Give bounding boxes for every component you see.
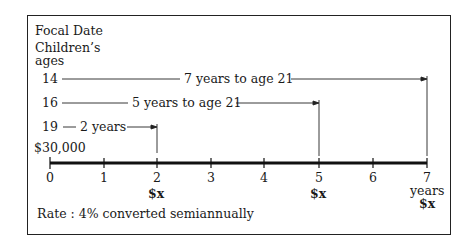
label-5-years: 5 years to age 21 <box>132 96 241 110</box>
label-7-years: 7 years to age 21 <box>184 72 293 86</box>
tick-label-0: 0 <box>46 171 54 185</box>
focal-date-title: Focal Date <box>35 24 103 38</box>
payment-at-5: $x <box>310 187 326 201</box>
tick-label-2: 2 <box>153 171 161 185</box>
arrow-age-14 <box>62 76 427 156</box>
tick-label-6: 6 <box>369 171 377 185</box>
tick-label-3: 3 <box>207 171 215 185</box>
label-2-years: 2 years <box>80 120 126 134</box>
rate-note: Rate : 4% converted semiannually <box>37 207 254 221</box>
payment-at-2: $x <box>148 187 164 201</box>
tick-label-4: 4 <box>260 171 268 185</box>
initial-amount: $30,000 <box>34 141 86 155</box>
age-16: 16 <box>42 96 58 110</box>
age-14: 14 <box>42 72 58 86</box>
payment-at-7: $x <box>419 197 435 211</box>
tick-label-5: 5 <box>315 171 323 185</box>
tick-label-1: 1 <box>100 171 108 185</box>
age-19: 19 <box>42 120 58 134</box>
ages-label-2: ages <box>35 54 64 68</box>
